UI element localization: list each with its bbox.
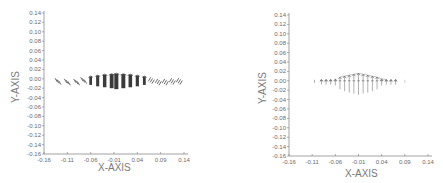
y-tick-label: -0.12	[27, 132, 41, 138]
x-axis-label: X-AXIS	[345, 168, 378, 179]
y-tick-label: 0.10	[274, 31, 286, 37]
right-plot-canvas: 0.140.120.100.080.060.040.020.00-0.02-0.…	[221, 0, 443, 183]
y-tick-label: -0.10	[27, 123, 41, 129]
y-tick-label: -0.08	[272, 115, 286, 121]
y-tick-label: -0.04	[272, 97, 286, 103]
x-axis-label: X-AXIS	[98, 162, 131, 173]
y-tick-label: 0.10	[29, 29, 41, 35]
x-tick-label: 0.09	[155, 157, 167, 163]
x-tick-label: -0.11	[61, 157, 75, 163]
x-tick-label: 0.14	[422, 159, 434, 165]
x-tick-label: -0.16	[37, 157, 51, 163]
x-tick-label: 0.04	[376, 159, 388, 165]
vector-field	[314, 73, 404, 95]
y-tick-label: -0.02	[27, 85, 41, 91]
y-tick-label: 0.08	[274, 40, 286, 46]
y-tick-label: -0.12	[272, 134, 286, 140]
x-tick-label: -0.01	[352, 159, 366, 165]
x-tick-label: 0.09	[399, 159, 411, 165]
y-axis-label: Y-AXIS	[257, 72, 268, 104]
y-tick-label: 0.14	[29, 10, 41, 16]
y-tick-label: 0.12	[274, 21, 286, 27]
y-tick-label: 0.12	[29, 19, 41, 25]
y-tick-label: 0.14	[274, 12, 286, 18]
y-tick-label: 0.04	[29, 57, 41, 63]
x-tick-label: -0.16	[282, 159, 296, 165]
y-tick-label: -0.06	[272, 106, 286, 112]
left-vector-plot: 0.140.120.100.080.060.040.020.00-0.02-0.…	[0, 0, 221, 183]
y-tick-label: 0.00	[274, 78, 286, 84]
y-tick-label: -0.10	[272, 125, 286, 131]
y-tick-label: 0.02	[29, 66, 41, 72]
x-tick-label: -0.06	[84, 157, 98, 163]
y-tick-label: -0.14	[272, 144, 286, 150]
y-tick-label: 0.06	[29, 48, 41, 54]
y-tick-label: -0.08	[27, 113, 41, 119]
y-tick-label: -0.06	[27, 104, 41, 110]
y-tick-label: 0.00	[29, 76, 41, 82]
x-tick-label: 0.04	[131, 157, 143, 163]
x-tick-label: -0.11	[306, 159, 320, 165]
y-axis: 0.140.120.100.080.060.040.020.00-0.02-0.…	[272, 12, 289, 159]
right-vector-plot: 0.140.120.100.080.060.040.020.00-0.02-0.…	[221, 0, 443, 183]
x-tick-label: 0.14	[178, 157, 190, 163]
left-plot-canvas: 0.140.120.100.080.060.040.020.00-0.02-0.…	[0, 0, 221, 183]
y-axis: 0.140.120.100.080.060.040.020.00-0.02-0.…	[27, 10, 44, 157]
y-tick-label: -0.04	[27, 95, 41, 101]
x-axis: -0.16-0.11-0.06-0.010.040.090.14	[282, 154, 434, 165]
x-tick-label: -0.06	[328, 159, 342, 165]
vector-field	[55, 73, 182, 89]
y-tick-label: -0.14	[27, 142, 41, 148]
y-tick-label: -0.02	[272, 87, 286, 93]
y-tick-label: 0.02	[274, 68, 286, 74]
y-tick-label: 0.04	[274, 59, 286, 65]
y-tick-label: 0.06	[274, 50, 286, 56]
y-axis-label: Y-AXIS	[10, 71, 21, 103]
y-tick-label: 0.08	[29, 38, 41, 44]
